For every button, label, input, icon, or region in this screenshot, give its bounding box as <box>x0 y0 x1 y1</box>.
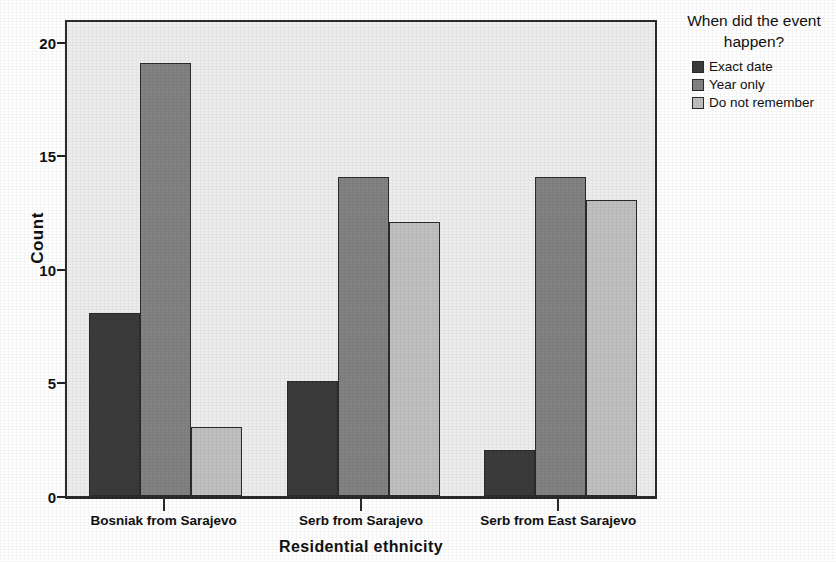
x-axis-title: Residential ethnicity <box>65 538 657 556</box>
legend-label: Exact date <box>709 59 773 74</box>
bar <box>389 222 440 496</box>
legend-swatch-icon <box>692 97 704 109</box>
x-tick-label: Bosniak from Sarajevo <box>91 513 237 528</box>
bar <box>140 63 191 496</box>
legend-item: Year only <box>692 76 836 93</box>
x-tick-mark <box>163 499 165 511</box>
bar <box>89 313 140 496</box>
legend-title-line-1: When did the event <box>672 10 836 31</box>
x-tick-mark <box>360 499 362 511</box>
legend: When did the event happen? Exact dateYea… <box>672 10 836 112</box>
y-tick-label: 0 <box>48 489 56 506</box>
legend-title: When did the event happen? <box>672 10 836 52</box>
bar <box>191 427 242 496</box>
bar-chart: Count 05101520 Bosniak from SarajevoSerb… <box>0 0 836 562</box>
legend-item: Exact date <box>692 58 836 75</box>
legend-title-line-2: happen? <box>672 31 836 52</box>
bar <box>586 200 637 496</box>
legend-swatch-icon <box>692 79 704 91</box>
plot-area <box>65 20 657 498</box>
bars-container <box>67 22 655 496</box>
legend-label: Do not remember <box>709 95 814 110</box>
y-tick-label: 15 <box>39 148 56 165</box>
x-tick-mark <box>557 499 559 511</box>
bar <box>287 381 338 496</box>
legend-item: Do not remember <box>692 94 836 111</box>
legend-items: Exact dateYear onlyDo not remember <box>672 58 836 111</box>
legend-swatch-icon <box>692 61 704 73</box>
legend-label: Year only <box>709 77 765 92</box>
y-tick-label: 5 <box>48 375 56 392</box>
x-tick-label: Serb from Sarajevo <box>299 513 423 528</box>
y-axis-ticks: 05101520 <box>0 0 66 562</box>
bar <box>338 177 389 496</box>
bar <box>535 177 586 496</box>
bar <box>484 450 535 496</box>
x-tick-label: Serb from East Sarajevo <box>480 513 636 528</box>
y-tick-label: 20 <box>39 34 56 51</box>
y-tick-label: 10 <box>39 261 56 278</box>
